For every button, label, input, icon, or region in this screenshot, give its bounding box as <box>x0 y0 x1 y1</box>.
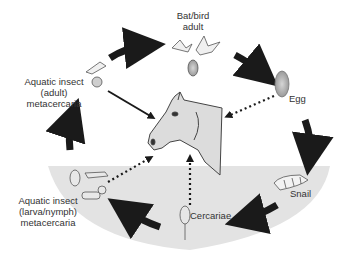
horse-head-illustration <box>148 92 222 175</box>
egg-illustration <box>275 71 289 97</box>
label-aquatic-insect-adult: Aquatic insect (adult) metacercaria <box>14 76 94 109</box>
label-snail: Snail <box>290 188 311 199</box>
arrow-egg-to-horse <box>228 96 274 116</box>
label-bat-bird: Bat/bird adult <box>168 10 218 32</box>
metacercaria-cyst-icon <box>70 170 80 186</box>
bat-bird-illustration <box>172 36 220 76</box>
arrow-egg-to-snail <box>305 120 310 155</box>
arrow-insect-to-bat <box>110 46 145 58</box>
arrow-larva-to-adult <box>69 118 72 150</box>
label-egg: Egg <box>289 93 306 104</box>
label-cercariae: Cercariae <box>190 210 231 221</box>
bat-bird-egg-icon <box>188 60 198 76</box>
arrow-bat-to-egg <box>235 55 262 73</box>
arrow-adult-insect-to-horse <box>108 91 152 117</box>
label-aquatic-insect-larva: Aquatic insect (larva/nymph) metacercari… <box>8 195 88 228</box>
